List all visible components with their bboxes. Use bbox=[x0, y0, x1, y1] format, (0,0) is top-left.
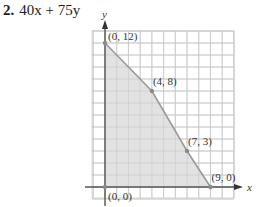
y-axis-arrow-icon bbox=[102, 20, 108, 29]
vertex-label: (0, 0) bbox=[108, 190, 132, 203]
vertex-label: (9, 0) bbox=[211, 171, 235, 184]
x-axis-label: x bbox=[246, 181, 252, 193]
vertex-point bbox=[208, 185, 212, 189]
vertex-label: (4, 8) bbox=[153, 75, 177, 88]
feasible-region-chart: xy (0, 12)(4, 8)(7, 3)(9, 0)(0, 0) bbox=[0, 0, 257, 207]
y-axis-label: y bbox=[101, 8, 107, 20]
x-axis-arrow-icon bbox=[234, 184, 243, 190]
vertex-point bbox=[150, 89, 154, 93]
vertex-label: (0, 12) bbox=[108, 30, 138, 43]
vertex-point bbox=[103, 185, 107, 189]
vertex-point bbox=[103, 41, 107, 45]
vertex-point bbox=[185, 149, 189, 153]
vertex-label: (7, 3) bbox=[188, 135, 212, 148]
